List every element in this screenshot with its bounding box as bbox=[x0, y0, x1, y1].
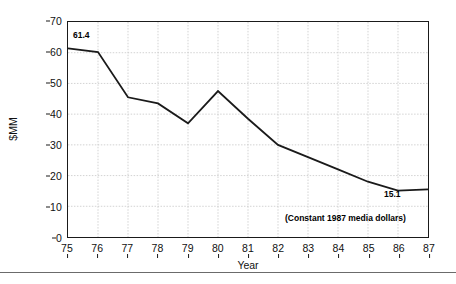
x-tick-label: 75 bbox=[61, 242, 73, 254]
x-tick-mark bbox=[67, 254, 68, 258]
y-tick-mark bbox=[46, 21, 50, 22]
y-axis-tick-labels: 010203040506070 bbox=[26, 21, 62, 238]
x-tick-mark bbox=[127, 254, 128, 258]
y-tick-label: 40 bbox=[50, 108, 62, 120]
y-tick-label: 60 bbox=[50, 46, 62, 58]
x-tick-label: 80 bbox=[212, 242, 224, 254]
y-tick-mark bbox=[46, 114, 50, 115]
x-tick-mark bbox=[399, 254, 400, 258]
y-tick-label: 70 bbox=[50, 15, 62, 27]
y-tick-label: 50 bbox=[50, 77, 62, 89]
page-divider-rule bbox=[0, 272, 456, 273]
x-axis-tick-labels: 75767778798081828384858687 bbox=[67, 242, 429, 258]
x-tick-label: 81 bbox=[242, 242, 254, 254]
x-tick-label: 85 bbox=[363, 242, 375, 254]
x-tick-label: 77 bbox=[121, 242, 133, 254]
x-tick-label: 76 bbox=[91, 242, 103, 254]
chart-figure: $MM 010203040506070 75767778798081828384… bbox=[0, 0, 456, 284]
y-tick-mark bbox=[46, 207, 50, 208]
y-tick-mark bbox=[46, 176, 50, 177]
x-tick-mark bbox=[248, 254, 249, 258]
x-tick-label: 79 bbox=[182, 242, 194, 254]
x-tick-mark bbox=[429, 254, 430, 258]
y-tick-mark bbox=[46, 83, 50, 84]
x-tick-mark bbox=[369, 254, 370, 258]
plot-area bbox=[67, 21, 429, 238]
y-tick-label: 20 bbox=[50, 170, 62, 182]
start-value-annotation: 61.4 bbox=[73, 30, 90, 40]
x-tick-label: 83 bbox=[302, 242, 314, 254]
x-tick-mark bbox=[308, 254, 309, 258]
units-note-annotation: (Constant 1987 media dollars) bbox=[285, 213, 406, 223]
x-tick-mark bbox=[278, 254, 279, 258]
y-tick-label: 30 bbox=[50, 139, 62, 151]
x-tick-mark bbox=[97, 254, 98, 258]
x-tick-label: 87 bbox=[423, 242, 435, 254]
x-tick-mark bbox=[218, 254, 219, 258]
y-tick-label: 10 bbox=[50, 201, 62, 213]
x-tick-mark bbox=[188, 254, 189, 258]
x-tick-label: 86 bbox=[393, 242, 405, 254]
x-tick-label: 84 bbox=[333, 242, 345, 254]
x-tick-mark bbox=[157, 254, 158, 258]
x-tick-label: 78 bbox=[152, 242, 164, 254]
x-tick-mark bbox=[338, 254, 339, 258]
x-tick-label: 82 bbox=[272, 242, 284, 254]
end-value-annotation: 15.1 bbox=[384, 189, 401, 199]
data-line bbox=[68, 48, 428, 190]
y-tick-mark bbox=[46, 145, 50, 146]
y-tick-mark bbox=[52, 238, 56, 239]
y-axis-title: $MM bbox=[7, 117, 19, 140]
x-axis-title: Year bbox=[67, 259, 429, 271]
y-tick-mark bbox=[46, 52, 50, 53]
data-line-series bbox=[68, 22, 428, 237]
